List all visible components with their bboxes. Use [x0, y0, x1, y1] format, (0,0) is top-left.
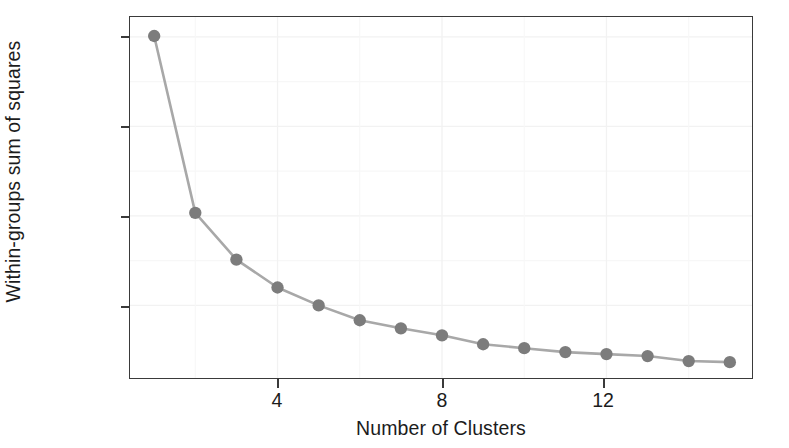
data-point-1	[148, 30, 160, 42]
data-point-5	[312, 299, 324, 311]
data-point-12	[600, 348, 612, 360]
data-point-8	[436, 329, 448, 341]
data-point-4	[271, 281, 283, 293]
x-tick-mark-12	[603, 379, 605, 388]
data-point-6	[354, 314, 366, 326]
x-axis-title: Number of Clusters	[129, 417, 753, 440]
chart-page: Within-groups sum of squares 2000 1500 1…	[0, 0, 789, 448]
data-point-11	[559, 346, 571, 358]
x-tick-mark-8	[442, 379, 444, 388]
data-point-15	[724, 356, 736, 368]
data-point-9	[477, 338, 489, 350]
x-tick-label-8: 8	[412, 391, 472, 411]
y-axis-title: Within-groups sum of squares	[2, 0, 25, 382]
data-point-14	[683, 355, 695, 367]
data-point-13	[641, 350, 653, 362]
x-tick-mark-4	[277, 379, 279, 388]
data-point-10	[518, 342, 530, 354]
data-series-elbow-curve	[130, 17, 752, 378]
x-tick-label-12: 12	[573, 391, 633, 411]
data-point-2	[189, 207, 201, 219]
x-tick-label-4: 4	[247, 391, 307, 411]
data-point-7	[395, 322, 407, 334]
data-point-3	[230, 253, 242, 265]
plot-area	[129, 16, 753, 379]
